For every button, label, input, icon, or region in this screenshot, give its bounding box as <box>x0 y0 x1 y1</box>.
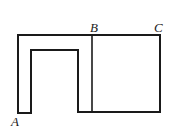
diagram-canvas: A B C <box>0 0 174 134</box>
label-c: C <box>154 20 163 35</box>
label-a: A <box>10 114 19 129</box>
label-b: B <box>90 20 98 35</box>
outline-shape <box>18 35 160 113</box>
